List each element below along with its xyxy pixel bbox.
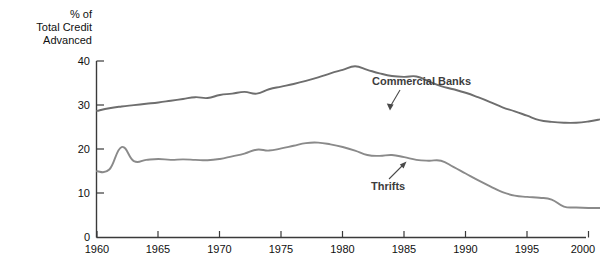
y-axis-title: % of Total Credit Advanced <box>36 8 93 46</box>
x-tick-label-1990: 1990 <box>453 243 477 255</box>
annotation-label-commercial-banks: Commercial Banks <box>372 75 471 87</box>
credit-advanced-line-chart: % of Total Credit Advanced 40 30 20 10 0… <box>0 0 600 269</box>
y-tick-label-10: 10 <box>78 187 90 199</box>
annotation-thrifts: Thrifts <box>371 162 407 193</box>
y-tick-label-40: 40 <box>78 55 90 67</box>
chart-container: % of Total Credit Advanced 40 30 20 10 0… <box>0 0 600 269</box>
x-tick-label-1960: 1960 <box>85 243 109 255</box>
x-tick-label-1975: 1975 <box>269 243 293 255</box>
y-tick-label-30: 30 <box>78 99 90 111</box>
x-tick-label-1965: 1965 <box>146 243 170 255</box>
series-line-commercial-banks <box>97 66 600 123</box>
y-axis-title-line-1: % of <box>70 8 93 20</box>
annotation-arrowhead-commercial-banks <box>387 104 394 111</box>
y-axis-title-line-2: Total Credit <box>36 21 92 33</box>
y-axis-ticks: 40 30 20 10 0 <box>78 55 104 243</box>
annotation-label-thrifts: Thrifts <box>371 180 405 192</box>
x-tick-label-2000: 2000 <box>571 243 595 255</box>
x-axis-ticks: 1960 1965 1970 1975 1980 1985 1990 1995 … <box>85 231 595 255</box>
x-tick-label-1970: 1970 <box>207 243 231 255</box>
x-tick-label-1995: 1995 <box>515 243 539 255</box>
x-tick-label-1985: 1985 <box>392 243 416 255</box>
y-tick-label-20: 20 <box>78 143 90 155</box>
series-line-thrifts <box>97 142 600 208</box>
x-tick-label-1980: 1980 <box>330 243 354 255</box>
annotation-commercial-banks: Commercial Banks <box>372 75 471 111</box>
y-tick-label-0: 0 <box>84 231 90 243</box>
y-axis-title-line-3: Advanced <box>43 34 92 46</box>
